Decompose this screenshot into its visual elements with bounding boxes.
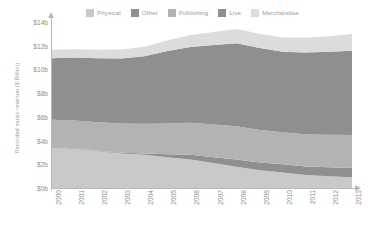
x-tick-label: 2001 (78, 190, 85, 205)
x-tick-label: 2010 (286, 190, 293, 205)
x-axis-tick-labels: 2000200120022003200420052006200720082009… (0, 190, 380, 230)
legend-label: Live (229, 9, 241, 16)
legend-label: Other (142, 9, 158, 16)
x-tick-label: 2003 (124, 190, 131, 205)
legend-item-live[interactable]: Live (218, 9, 241, 17)
plot-area (52, 22, 352, 188)
legend-item-physical[interactable]: Physical (86, 9, 121, 17)
x-tick-label: 2002 (101, 190, 108, 205)
stacked-area-svg (52, 22, 352, 188)
y-tick-label: $4b (14, 137, 48, 144)
y-axis-arrow-icon (48, 12, 54, 18)
legend-item-merchandise[interactable]: Merchandise (251, 9, 299, 17)
x-tick-label: 2004 (147, 190, 154, 205)
x-axis-line (51, 188, 356, 189)
legend-item-other[interactable]: Other (131, 9, 158, 17)
y-tick-label: $10b (14, 66, 48, 73)
y-tick-label: $8b (14, 90, 48, 97)
legend-swatch-icon (86, 9, 94, 17)
legend-swatch-icon (218, 9, 226, 17)
legend-swatch-icon (251, 9, 259, 17)
x-tick-label: 2000 (55, 190, 62, 205)
chart-legend: PhysicalOtherPublishingLiveMerchandise (86, 6, 299, 19)
x-tick-label: 2005 (170, 190, 177, 205)
legend-item-publishing[interactable]: Publishing (168, 9, 209, 17)
x-tick-label: 2011 (309, 190, 316, 204)
x-tick-label: 2013 (355, 190, 362, 205)
x-tick-label: 2006 (193, 190, 200, 205)
y-tick-label: $14b (14, 19, 48, 26)
x-tick-label: 2009 (263, 190, 270, 205)
legend-swatch-icon (131, 9, 139, 17)
y-tick-label: $12b (14, 42, 48, 49)
x-tick-label: 2012 (332, 190, 339, 205)
legend-label: Merchandise (262, 9, 299, 16)
x-tick-label: 2008 (240, 190, 247, 205)
legend-label: Physical (97, 9, 121, 16)
y-tick-label: $6b (14, 113, 48, 120)
legend-swatch-icon (168, 9, 176, 17)
legend-label: Publishing (179, 9, 209, 16)
x-tick-label: 2007 (217, 190, 224, 205)
y-tick-label: $2b (14, 161, 48, 168)
chart-container: PhysicalOtherPublishingLiveMerchandise R… (0, 0, 380, 239)
